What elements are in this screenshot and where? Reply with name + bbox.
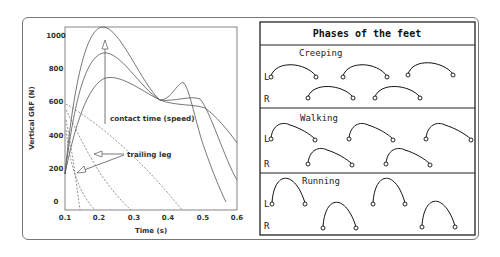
- right-foot-label: R: [264, 94, 270, 104]
- y-axis-label: Vertical GRF (N): [28, 86, 36, 149]
- section-label: Running: [302, 176, 340, 186]
- y-tick: 600: [49, 98, 64, 106]
- y-axis-ticks: 0 200 400 600 800 1000: [46, 32, 66, 206]
- arrow-up-icon: [102, 40, 108, 49]
- x-axis-ticks: 0.1 0.2 0.3 0.4 0.5 0.6: [59, 214, 244, 222]
- left-foot-label: L: [264, 199, 269, 209]
- x-tick: 0.4: [162, 214, 175, 222]
- y-tick: 800: [49, 65, 64, 73]
- y-tick: 1000: [46, 32, 66, 40]
- x-tick: 0.3: [128, 214, 141, 222]
- figure: 0 200 400 600 800 1000 0.1 0.2 0.3 0.4 0…: [0, 0, 500, 257]
- x-tick: 0.1: [59, 214, 72, 222]
- right-foot-label: R: [264, 159, 270, 169]
- contact-time-label: contact time (speed): [110, 114, 194, 123]
- x-tick: 0.5: [197, 214, 210, 222]
- section-label: Walking: [300, 113, 338, 123]
- trailing-curve: [66, 110, 131, 210]
- x-tick: 0.2: [93, 214, 106, 222]
- x-axis-label: Time (s): [135, 227, 167, 235]
- x-tick: 0.6: [231, 214, 244, 222]
- right-foot-label: R: [264, 221, 270, 231]
- grf-chart: 0 200 400 600 800 1000 0.1 0.2 0.3 0.4 0…: [28, 27, 243, 235]
- section-label: Creeping: [299, 48, 342, 58]
- y-tick: 0: [54, 198, 59, 206]
- contact-time-annotation: contact time (speed): [102, 40, 194, 124]
- trailing-leg-annotation: trailing leg: [77, 150, 171, 173]
- phases-table: [260, 22, 475, 235]
- phases-panel: Phases of the feet Creeping L R: [260, 22, 475, 235]
- curve-slow: [65, 77, 237, 174]
- phases-title: Phases of the feet: [313, 28, 421, 39]
- arrow-left-icon: [77, 166, 86, 173]
- trailing-leg-label: trailing leg: [127, 150, 171, 159]
- y-tick: 400: [49, 132, 64, 140]
- y-tick: 200: [49, 165, 64, 173]
- arrow-left-icon: [94, 151, 102, 157]
